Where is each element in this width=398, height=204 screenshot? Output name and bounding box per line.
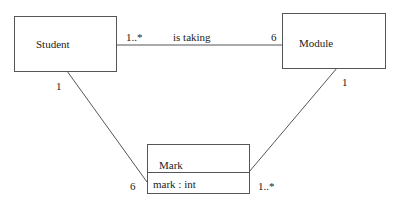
- multiplicity-student-mark-to: 6: [130, 180, 136, 192]
- association-line-module-mark: [249, 68, 337, 172]
- association-label-is-taking: is taking: [173, 31, 211, 43]
- class-name-student: Student: [36, 38, 70, 50]
- class-attribute-mark: mark : int: [153, 178, 196, 190]
- association-line-student-mark: [67, 71, 147, 182]
- class-student[interactable]: Student: [14, 16, 117, 72]
- multiplicity-module-mark-from: 1: [342, 76, 348, 88]
- multiplicity-module-mark-to: 1..*: [258, 180, 275, 192]
- class-name-mark: Mark: [159, 159, 183, 171]
- class-name-module: Module: [299, 37, 333, 49]
- multiplicity-student-mark-from: 1: [56, 80, 62, 92]
- class-diagram: Student Module Mark mark : int 1..* is t…: [0, 0, 398, 204]
- class-mark[interactable]: Mark mark : int: [147, 144, 250, 194]
- multiplicity-student-module-to: 6: [271, 31, 277, 43]
- class-divider: [148, 172, 249, 173]
- multiplicity-student-module-from: 1..*: [126, 31, 143, 43]
- class-module[interactable]: Module: [282, 13, 386, 69]
